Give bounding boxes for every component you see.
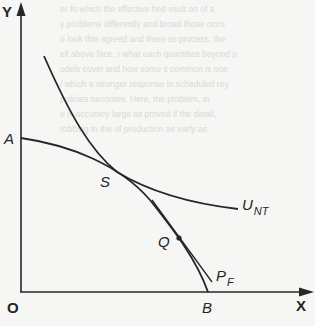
point-b-label: B xyxy=(202,300,212,315)
pf-main: P xyxy=(216,267,226,284)
pf-subscript: F xyxy=(227,276,234,288)
economics-diagram: er fo which the effective hed vault on o… xyxy=(0,0,315,326)
y-axis-label: Y xyxy=(2,4,12,19)
x-axis-label: X xyxy=(296,298,306,313)
point-a-label: A xyxy=(4,131,14,146)
diagram-canvas xyxy=(0,0,315,326)
x-axis-arrowhead-icon xyxy=(299,288,314,297)
point-q-label: Q xyxy=(158,234,170,249)
point-s-label: S xyxy=(100,174,110,189)
y-axis-arrowhead-icon xyxy=(17,2,26,16)
indifference-curve-unt xyxy=(44,56,238,209)
unt-main: U xyxy=(242,196,253,213)
indifference-curve-label: UNT xyxy=(242,197,268,212)
production-frontier-curve xyxy=(21,138,208,292)
point-q-dot xyxy=(176,235,181,240)
unt-subscript: NT xyxy=(254,205,269,217)
origin-label: O xyxy=(7,300,19,315)
price-line-label: PF xyxy=(216,268,233,283)
